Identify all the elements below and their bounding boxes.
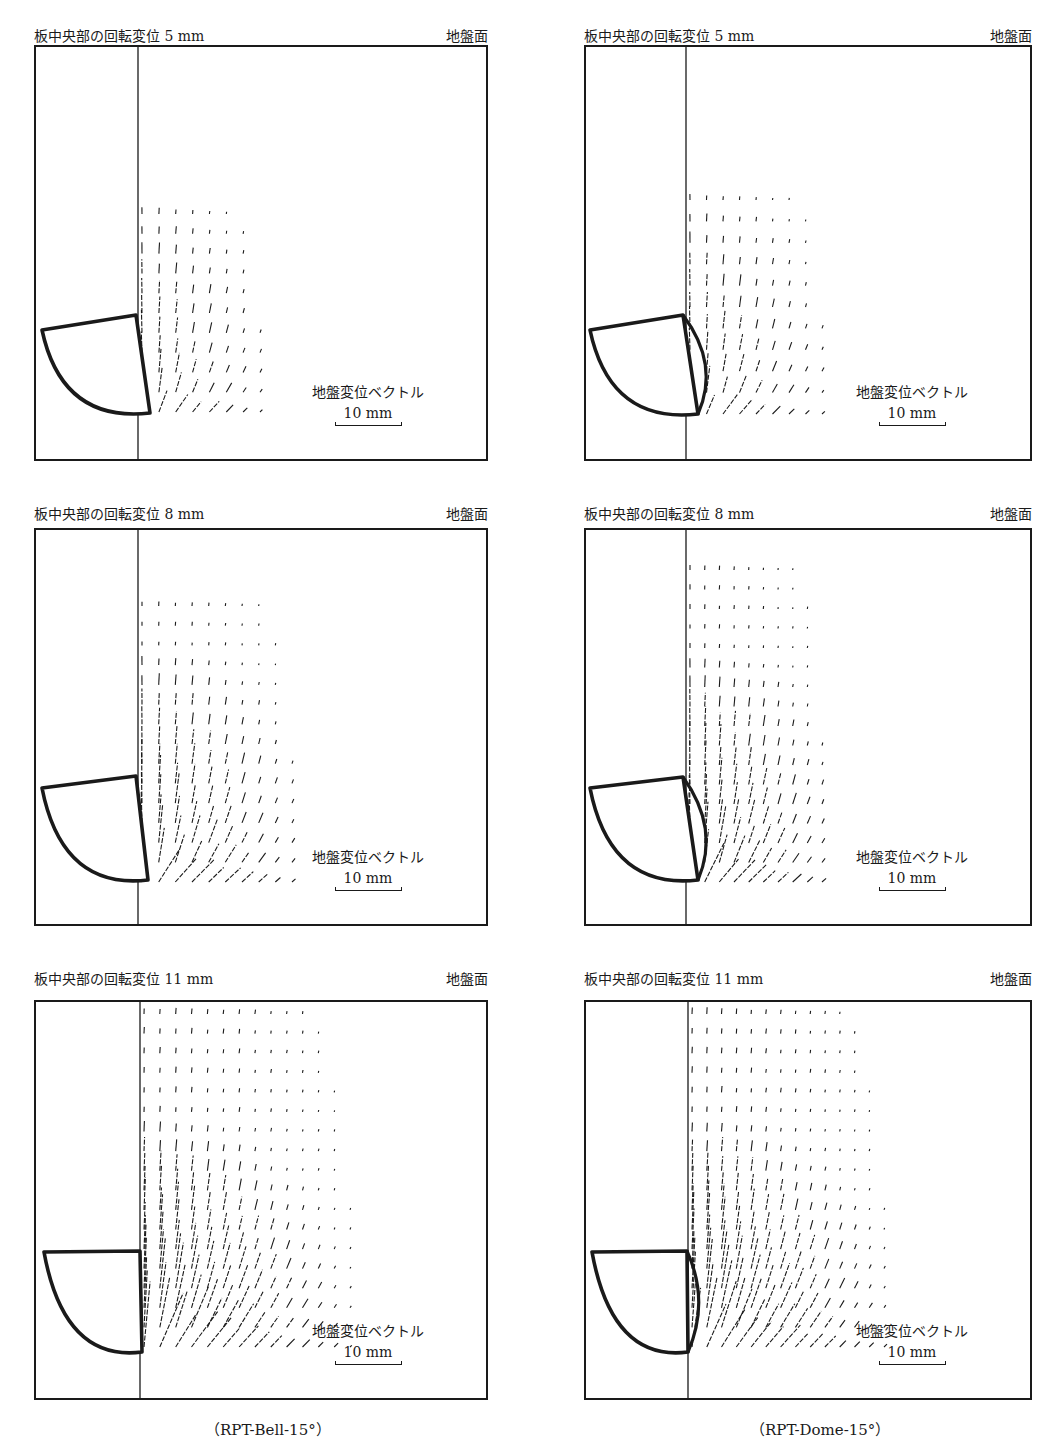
anchor-plate-bell [42,315,150,414]
legend-title: 地盤変位ベクトル [312,849,424,865]
scale-label: 10 mm [842,405,982,421]
displacement-panel-dome-11: 板中央部の回転変位 11 mm地盤面地盤変位ベクトル10 mm [584,968,1032,1400]
panel-title: 板中央部の回転変位 11 mm [584,968,763,988]
displacement-vectors [144,1008,352,1347]
ground-surface-label: 地盤面 [990,503,1032,523]
vector-scale-legend: 地盤変位ベクトル10 mm [298,1320,438,1365]
panel-title: 板中央部の回転変位 5 mm [584,25,754,45]
displacement-vectors [126,601,295,882]
ground-surface-label: 地盤面 [990,968,1032,988]
scale-label: 10 mm [842,1344,982,1360]
displacement-panel-bell-5: 板中央部の回転変位 5 mm地盤面地盤変位ベクトル10 mm [34,25,488,461]
scale-bar [335,887,402,891]
scale-label: 10 mm [298,870,438,886]
legend-title: 地盤変位ベクトル [856,384,968,400]
panel-title: 板中央部の回転変位 5 mm [34,25,204,45]
column-caption-dome: （RPT-Dome-15°） [750,1418,890,1439]
soil-box-frame: 地盤変位ベクトル10 mm [34,1000,488,1400]
scale-bar [879,1361,946,1365]
vector-scale-legend: 地盤変位ベクトル10 mm [842,1320,982,1365]
legend-title: 地盤変位ベクトル [312,1323,424,1339]
displacement-panel-bell-11: 板中央部の回転変位 11 mm地盤面地盤変位ベクトル10 mm [34,968,488,1400]
scale-bar [335,1361,402,1365]
displacement-vectors [136,207,263,412]
anchor-plate-dome [590,315,698,415]
soil-box-frame: 地盤変位ベクトル10 mm [584,528,1032,926]
scale-bar [879,887,946,891]
panel-title: 板中央部の回転変位 8 mm [34,503,204,523]
anchor-plate-dome [590,777,698,881]
scale-label: 10 mm [298,1344,438,1360]
displacement-vectors [682,194,825,414]
soil-box-frame: 地盤変位ベクトル10 mm [584,1000,1032,1400]
vector-scale-legend: 地盤変位ベクトル10 mm [842,846,982,891]
legend-title: 地盤変位ベクトル [312,384,424,400]
panel-header: 板中央部の回転変位 8 mm地盤面 [584,503,1032,523]
displacement-panel-dome-8: 板中央部の回転変位 8 mm地盤面地盤変位ベクトル10 mm [584,503,1032,926]
displacement-vectors [692,1007,887,1347]
ground-surface-label: 地盤面 [446,25,488,45]
soil-box-frame: 地盤変位ベクトル10 mm [584,45,1032,461]
panel-header: 板中央部の回転変位 5 mm地盤面 [34,25,488,45]
ground-surface-label: 地盤面 [446,968,488,988]
displacement-vectors [674,565,827,882]
scale-label: 10 mm [842,870,982,886]
soil-box-frame: 地盤変位ベクトル10 mm [34,45,488,461]
scale-bar [335,422,402,426]
column-caption-bell: （RPT-Bell-15°） [205,1418,331,1439]
panel-title: 板中央部の回転変位 8 mm [584,503,754,523]
panel-title: 板中央部の回転変位 11 mm [34,968,213,988]
panel-header: 板中央部の回転変位 8 mm地盤面 [34,503,488,523]
ground-surface-label: 地盤面 [446,503,488,523]
panel-header: 板中央部の回転変位 11 mm地盤面 [584,968,1032,988]
anchor-plate-dome [592,1251,688,1353]
anchor-plate-bell [44,1251,142,1353]
anchor-plate-bell [42,776,148,881]
displacement-panel-dome-5: 板中央部の回転変位 5 mm地盤面地盤変位ベクトル10 mm [584,25,1032,461]
legend-title: 地盤変位ベクトル [856,1323,968,1339]
legend-title: 地盤変位ベクトル [856,849,968,865]
vector-scale-legend: 地盤変位ベクトル10 mm [298,846,438,891]
displacement-panel-bell-8: 板中央部の回転変位 8 mm地盤面地盤変位ベクトル10 mm [34,503,488,926]
ground-surface-label: 地盤面 [990,25,1032,45]
panel-header: 板中央部の回転変位 11 mm地盤面 [34,968,488,988]
vector-scale-legend: 地盤変位ベクトル10 mm [298,381,438,426]
soil-box-frame: 地盤変位ベクトル10 mm [34,528,488,926]
vector-scale-legend: 地盤変位ベクトル10 mm [842,381,982,426]
scale-label: 10 mm [298,405,438,421]
panel-header: 板中央部の回転変位 5 mm地盤面 [584,25,1032,45]
scale-bar [879,422,946,426]
